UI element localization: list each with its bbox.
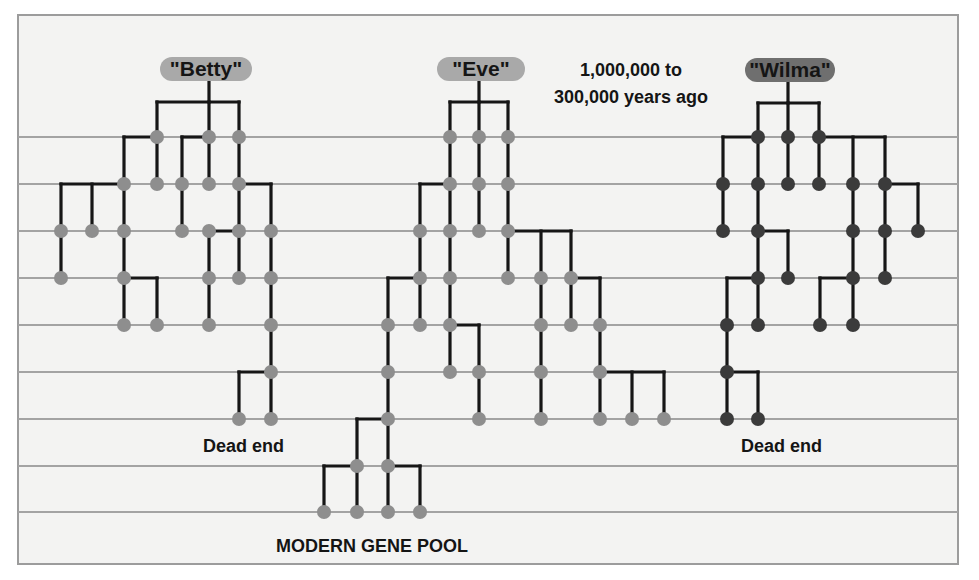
descendant-node — [264, 412, 278, 426]
descendant-node — [443, 224, 457, 238]
eve-lineage-label: "Eve" — [437, 57, 525, 81]
wilma-lineage-label: "Wilma" — [745, 58, 835, 82]
descendant-node — [878, 177, 892, 191]
descendant-node — [202, 130, 216, 144]
descendant-node — [54, 271, 68, 285]
descendant-node — [846, 318, 860, 332]
descendant-node — [232, 130, 246, 144]
descendant-node — [472, 365, 486, 379]
descendant-node — [534, 271, 548, 285]
descendant-node — [720, 412, 734, 426]
descendant-node — [472, 130, 486, 144]
descendant-node — [202, 177, 216, 191]
descendant-node — [501, 177, 515, 191]
descendant-node — [501, 271, 515, 285]
descendant-node — [625, 412, 639, 426]
descendant-node — [443, 318, 457, 332]
descendant-node — [264, 224, 278, 238]
descendant-node — [751, 271, 765, 285]
descendant-node — [720, 365, 734, 379]
descendant-node — [413, 505, 427, 519]
descendant-node — [413, 318, 427, 332]
descendant-node — [593, 365, 607, 379]
descendant-node — [846, 224, 860, 238]
time-range-line2: 300,000 years ago — [554, 87, 708, 107]
descendant-node — [751, 177, 765, 191]
descendant-node — [317, 505, 331, 519]
betty-lineage-label: "Betty" — [160, 57, 252, 81]
descendant-node — [501, 224, 515, 238]
descendant-node — [443, 365, 457, 379]
descendant-node — [117, 177, 131, 191]
descendant-node — [501, 130, 515, 144]
descendant-node — [751, 318, 765, 332]
descendant-node — [117, 224, 131, 238]
descendant-node — [150, 177, 164, 191]
wilma-label: "Wilma" — [749, 58, 831, 81]
descendant-node — [381, 365, 395, 379]
descendant-node — [472, 412, 486, 426]
descendant-node — [264, 271, 278, 285]
descendant-node — [751, 412, 765, 426]
descendant-node — [150, 318, 164, 332]
descendant-node — [751, 130, 765, 144]
betty-dead-end-label: Dead end — [203, 436, 284, 456]
descendant-node — [232, 412, 246, 426]
descendant-node — [381, 318, 395, 332]
descendant-node — [443, 271, 457, 285]
descendant-node — [117, 318, 131, 332]
descendant-node — [593, 412, 607, 426]
descendant-node — [720, 318, 734, 332]
descendant-node — [911, 224, 925, 238]
descendant-node — [202, 224, 216, 238]
descendant-node — [812, 130, 826, 144]
descendant-node — [202, 271, 216, 285]
betty-label: "Betty" — [170, 57, 242, 80]
diagram-frame — [18, 15, 958, 564]
descendant-node — [264, 318, 278, 332]
descendant-node — [350, 459, 364, 473]
descendant-node — [350, 505, 364, 519]
descendant-node — [781, 130, 795, 144]
descendant-node — [150, 130, 164, 144]
descendant-node — [175, 224, 189, 238]
descendant-node — [381, 412, 395, 426]
descendant-node — [232, 224, 246, 238]
descendant-node — [54, 224, 68, 238]
descendant-node — [413, 224, 427, 238]
time-range-line1: 1,000,000 to — [580, 60, 682, 80]
descendant-node — [534, 412, 548, 426]
descendant-node — [564, 318, 578, 332]
descendant-node — [413, 271, 427, 285]
lineage-diagram: "Betty" "Eve" "Wilma" 1,000,000 to 300,0… — [0, 0, 979, 580]
descendant-node — [846, 177, 860, 191]
descendant-node — [878, 224, 892, 238]
eve-label: "Eve" — [452, 57, 509, 80]
descendant-node — [657, 412, 671, 426]
descendant-node — [472, 177, 486, 191]
descendant-node — [232, 271, 246, 285]
descendant-node — [381, 459, 395, 473]
modern-gene-pool-label: MODERN GENE POOL — [276, 536, 468, 556]
descendant-node — [117, 271, 131, 285]
descendant-node — [232, 177, 246, 191]
descendant-node — [443, 130, 457, 144]
descendant-node — [781, 177, 795, 191]
descendant-node — [534, 365, 548, 379]
descendant-node — [564, 271, 578, 285]
descendant-node — [175, 177, 189, 191]
descendant-node — [472, 224, 486, 238]
descendant-node — [593, 318, 607, 332]
descendant-node — [202, 318, 216, 332]
descendant-node — [751, 224, 765, 238]
descendant-node — [381, 505, 395, 519]
descendant-node — [85, 224, 99, 238]
descendant-node — [716, 177, 730, 191]
descendant-node — [443, 177, 457, 191]
descendant-node — [846, 271, 860, 285]
descendant-node — [716, 224, 730, 238]
descendant-node — [812, 177, 826, 191]
wilma-dead-end-label: Dead end — [741, 436, 822, 456]
descendant-node — [781, 271, 795, 285]
descendant-node — [534, 318, 548, 332]
